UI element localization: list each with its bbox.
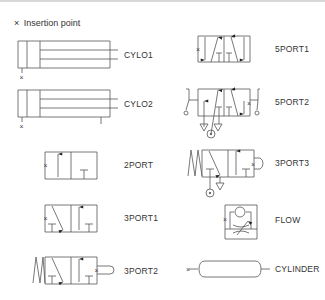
svg-text:×: ×	[95, 267, 99, 274]
insertion-point-icon: ×	[20, 123, 24, 130]
label-5port2: 5PORT2	[275, 97, 309, 107]
3port2-symbol: ×	[33, 257, 114, 284]
cylo2-symbol: ×	[18, 90, 118, 130]
svg-text:×: ×	[186, 266, 190, 273]
label-3port3: 3PORT3	[275, 158, 309, 168]
label-3port1: 3PORT1	[124, 213, 158, 223]
label-3port2: 3PORT2	[124, 266, 158, 276]
label-flow: FLOW	[275, 215, 300, 225]
svg-text:×: ×	[44, 162, 48, 169]
svg-text:×: ×	[44, 215, 48, 222]
label-5port1: 5PORT1	[275, 44, 309, 54]
flow-symbol: ×	[223, 205, 257, 239]
svg-text:×: ×	[247, 100, 251, 107]
label-cylo2: CYLO2	[124, 99, 153, 109]
3port3-symbol: ×	[188, 150, 263, 197]
label-cylo1: CYLO1	[124, 50, 153, 60]
insertion-point-icon: ×	[20, 74, 24, 81]
svg-text:×: ×	[223, 216, 227, 223]
cylinder-symbol: ×	[186, 261, 270, 277]
label-2port: 2PORT	[124, 160, 153, 170]
5port2-symbol: ×	[184, 89, 260, 138]
3port1-symbol: ×	[44, 205, 98, 232]
cylo1-symbol: ×	[18, 41, 118, 81]
svg-text:×: ×	[251, 161, 255, 168]
5port1-symbol: ×	[196, 36, 250, 62]
label-cylinder: CYLINDER	[275, 264, 320, 274]
2port-symbol: ×	[44, 152, 98, 179]
svg-text:×: ×	[196, 46, 200, 53]
